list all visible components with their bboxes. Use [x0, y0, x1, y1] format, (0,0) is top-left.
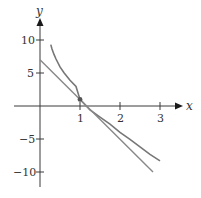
x-tick-label-1: 1	[77, 112, 84, 125]
chart: y x 1 2 3 10 5 −5 −10	[0, 0, 201, 198]
y-axis-label: y	[35, 4, 43, 18]
x-tick-label-3: 3	[157, 112, 164, 125]
y-tick-label-neg5: −5	[19, 133, 35, 146]
x-tick-label-2: 2	[117, 112, 124, 125]
y-tick-label-10: 10	[21, 34, 35, 47]
y-tick-label-5: 5	[27, 67, 34, 80]
tangent-point	[78, 97, 83, 102]
x-axis-label: x	[186, 99, 193, 113]
x-axis-arrow-icon	[175, 103, 183, 110]
tangent-line	[40, 60, 153, 172]
y-axis-arrow-icon	[37, 18, 44, 26]
curve-series	[51, 45, 160, 161]
y-tick-label-neg10: −10	[13, 166, 36, 179]
